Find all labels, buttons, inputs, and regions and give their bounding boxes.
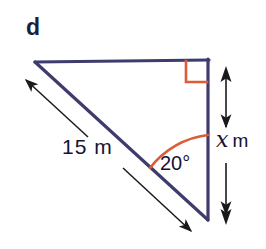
figure-page: d 15 m 20° xm	[0, 0, 266, 249]
height-variable: x	[216, 127, 228, 152]
dimension-segment-upper	[26, 80, 88, 137]
right-angle-marker-icon	[186, 61, 207, 82]
height-label: xm	[216, 129, 248, 151]
dimension-segment-lower	[123, 168, 191, 231]
angle-measure-label: 20°	[160, 153, 190, 173]
height-unit: m	[232, 130, 248, 151]
hypotenuse-length-label: 15 m	[62, 136, 113, 157]
triangle-top-edge	[35, 60, 209, 62]
part-label: d	[26, 16, 40, 39]
